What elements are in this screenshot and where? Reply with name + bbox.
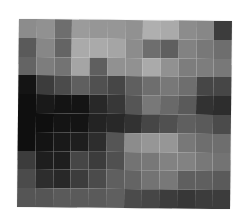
mosaic-cell (213, 134, 231, 153)
mosaic-cell (54, 76, 72, 95)
mosaic-cell (71, 132, 89, 151)
mosaic-cell (36, 94, 54, 113)
mosaic-cell (88, 189, 106, 208)
mosaic-cell (195, 171, 213, 190)
mosaic-cell (178, 96, 196, 115)
mosaic-cell (89, 114, 107, 133)
mosaic-cell (124, 189, 142, 208)
mosaic-cell (37, 19, 55, 38)
mosaic-cell (212, 171, 230, 190)
mosaic-cell (124, 152, 142, 171)
mosaic-cell (70, 170, 88, 189)
mosaic-cell (179, 21, 197, 40)
mosaic-cell (18, 94, 36, 113)
mosaic-cell (213, 153, 231, 172)
mosaic-cell (72, 57, 90, 76)
mosaic-cell (89, 95, 107, 114)
mosaic-cell (213, 77, 231, 96)
mosaic-cell (214, 59, 232, 78)
mosaic-cell (17, 150, 35, 169)
mosaic-cell (177, 152, 195, 171)
mosaic-cell (107, 76, 125, 95)
mosaic-cell (195, 152, 213, 171)
mosaic-cell (106, 170, 124, 189)
mosaic-cell (161, 39, 179, 58)
mosaic-cell (196, 40, 214, 59)
mosaic-cell (213, 96, 231, 115)
mosaic-cell (18, 113, 36, 132)
mosaic-cell (214, 40, 232, 59)
mosaic-cell (160, 96, 178, 115)
mosaic-cell (54, 57, 72, 76)
mosaic-cell (36, 75, 54, 94)
mosaic-cell (18, 56, 36, 75)
mosaic-cell (35, 132, 53, 151)
mosaic-cell (17, 169, 35, 188)
mosaic-cell (53, 132, 71, 151)
mosaic-cell (160, 77, 178, 96)
mosaic-cell (143, 39, 161, 58)
mosaic-cell (54, 94, 72, 113)
mosaic-cell (89, 76, 107, 95)
mosaic-cell (214, 21, 232, 40)
mosaic-cell (89, 132, 107, 151)
mosaic-cell (142, 152, 160, 171)
mosaic-cell (143, 58, 161, 77)
mosaic-cell (90, 20, 108, 39)
mosaic-cell (141, 171, 159, 190)
mosaic-cell (177, 171, 195, 190)
mosaic-cell (36, 113, 54, 132)
mosaic-cell (142, 77, 160, 96)
mosaic-cell (53, 113, 71, 132)
mosaic-cell (53, 188, 71, 207)
mosaic-cell (177, 133, 195, 152)
mosaic-cell (107, 95, 125, 114)
mosaic-cell (212, 190, 230, 209)
mosaic-cell (72, 38, 90, 57)
mosaic-cell (17, 188, 35, 207)
mosaic-cell (124, 114, 142, 133)
mosaic-cell (125, 95, 143, 114)
mosaic-cell (71, 76, 89, 95)
mosaic-cell (177, 190, 195, 209)
mosaic-cell (54, 19, 72, 38)
mosaic-cell (106, 189, 124, 208)
mosaic-cell (53, 170, 71, 189)
mosaic-cell (88, 170, 106, 189)
mosaic-cell (19, 19, 37, 38)
mosaic-cell (196, 77, 214, 96)
mosaic-cell (124, 170, 142, 189)
mosaic-cell (125, 58, 143, 77)
mosaic-cell (142, 114, 160, 133)
mosaic-cell (71, 151, 89, 170)
mosaic-cell (71, 95, 89, 114)
mosaic-cell (196, 58, 214, 77)
mosaic-cell (72, 19, 90, 38)
mosaic-cell (107, 114, 125, 133)
mosaic-cell (159, 190, 177, 209)
mosaic-cell (35, 188, 53, 207)
mosaic-cell (159, 171, 177, 190)
mosaic-cell (107, 39, 125, 58)
mosaic-cell (18, 132, 36, 151)
mosaic-cell (195, 115, 213, 134)
mosaic-cell (71, 113, 89, 132)
mosaic-cell (160, 58, 178, 77)
mosaic-cell (159, 152, 177, 171)
mosaic-cell (195, 134, 213, 153)
mosaic-cell (195, 96, 213, 115)
mosaic-cell (196, 21, 214, 40)
mosaic-cell (124, 133, 142, 152)
mosaic-cell (141, 189, 159, 208)
mosaic-cell (106, 133, 124, 152)
mosaic-cell (35, 151, 53, 170)
mosaic-cell (195, 190, 213, 209)
mosaic-cell (19, 38, 37, 57)
mosaic-cell (125, 39, 143, 58)
mosaic-cell (142, 133, 160, 152)
mosaic-cell (178, 39, 196, 58)
mosaic-cell (106, 151, 124, 170)
mosaic-cell (107, 57, 125, 76)
mosaic-cell (125, 20, 143, 39)
mosaic-cell (18, 75, 36, 94)
